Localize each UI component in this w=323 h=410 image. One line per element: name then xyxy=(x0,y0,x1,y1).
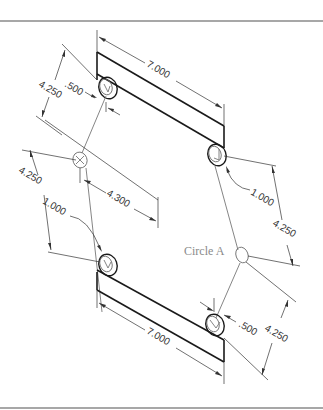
link-line-top xyxy=(82,96,106,153)
bottom-right-offset-value: .500 xyxy=(237,318,260,337)
left-diameter-leader xyxy=(70,216,100,248)
right-diameter-value: 1.000 xyxy=(249,186,277,208)
right-spacing-value: 4.250 xyxy=(271,217,299,239)
bottom-right-spacing-value: 4.250 xyxy=(263,322,291,344)
right-upper-hole xyxy=(205,142,229,169)
left-diameter-value: 1.000 xyxy=(41,195,69,217)
right-link-line xyxy=(215,166,238,250)
right-upper-extension xyxy=(224,156,276,166)
circle-a-link xyxy=(216,263,240,318)
bottom-length-value: 7.000 xyxy=(145,325,173,347)
top-length-value: 7.000 xyxy=(145,58,173,80)
bottom-bar xyxy=(97,270,224,362)
lower-left-hole xyxy=(96,252,120,279)
top-left-hole xyxy=(96,75,120,102)
right-diameter-leader xyxy=(227,170,250,190)
circle-a-label: Circle A xyxy=(184,244,225,258)
right-spacing-dimension xyxy=(272,166,293,266)
bottom-right-offset-dimension xyxy=(200,298,268,380)
right-diameter-arrow xyxy=(226,166,230,173)
isometric-drawing: 7.000 .500 4.250 xyxy=(0,0,323,410)
top-left-spacing-value: 4.250 xyxy=(37,78,65,100)
circle-a-diagonal xyxy=(246,262,296,302)
top-left-offset-value: .500 xyxy=(63,78,86,97)
circle-a xyxy=(234,245,251,264)
left-middle-hole xyxy=(71,150,90,170)
middle-offset-value: 4.300 xyxy=(105,187,133,209)
left-spacing-value: 4.250 xyxy=(17,164,45,186)
diagonal-extension xyxy=(45,120,158,200)
left-diameter-arrow xyxy=(97,245,102,252)
